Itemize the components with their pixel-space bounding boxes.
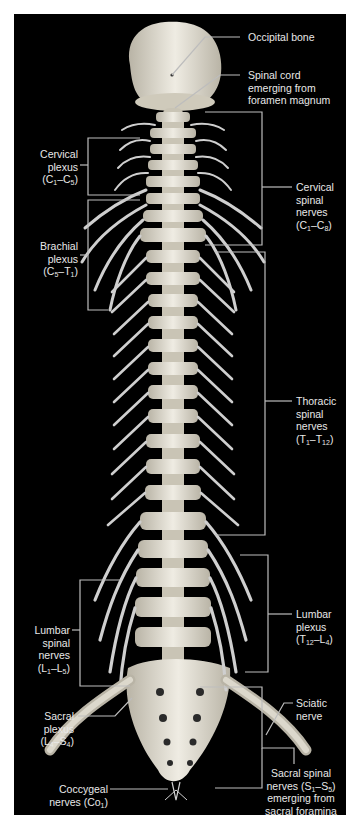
- label-cervical-spinal-nerves: Cervical spinal nerves (C1–C8): [296, 181, 334, 231]
- label-coccygeal-nerves: Coccygeal nerves (Co1): [36, 783, 108, 808]
- label-sacral-plexus: Sacral plexus (L4–S4): [14, 710, 74, 748]
- label-lumbar-spinal-nerves: Lumbar spinal nerves (L1–L5): [14, 624, 70, 674]
- label-occipital-bone: Occipital bone: [248, 31, 315, 44]
- label-sacral-spinal-nerves: Sacral spinal nerves (S1–S5) emerging fr…: [256, 767, 346, 817]
- occipital-bone: [129, 22, 221, 111]
- label-brachial-plexus: Brachial plexus (C5–T1): [22, 240, 78, 278]
- vertebral-column: [135, 108, 211, 668]
- label-lumbar-plexus: Lumbar plexus (T12–L4): [296, 608, 333, 646]
- label-sciatic-nerve: Sciatic nerve: [296, 697, 327, 722]
- label-spinal-cord: Spinal cord emerging from foramen magnum: [248, 69, 330, 107]
- label-cervical-plexus: Cervical plexus (C1–C5): [22, 148, 78, 186]
- sacrum: [127, 659, 231, 800]
- label-thoracic-spinal-nerves: Thoracic spinal nerves (T1–T12): [296, 395, 336, 445]
